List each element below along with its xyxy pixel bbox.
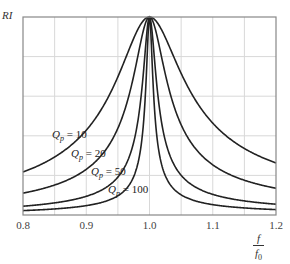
grid-lines [23, 17, 276, 215]
x-tick-label: 1.0 [143, 219, 157, 231]
series-label-q20: Qp = 20 [71, 147, 106, 162]
x-axis-label: f f0 [253, 232, 264, 264]
fraction-bar [253, 245, 264, 246]
x-axis-label-denominator: f0 [255, 247, 262, 259]
series-label-q100: Qp = 100 [108, 183, 148, 198]
x-tick-label: 0.9 [79, 219, 93, 231]
x-tick-label: 1.1 [206, 219, 220, 231]
y-axis-label: RI [2, 9, 12, 21]
series-label-q10: Qp = 10 [52, 128, 87, 143]
series-label-q50: Qp = 50 [91, 165, 126, 180]
x-tick-label: 1.2 [269, 219, 283, 231]
denominator-subscript: 0 [258, 253, 262, 262]
x-axis-label-numerator: f [253, 232, 264, 244]
x-tick-label: 0.8 [16, 219, 30, 231]
